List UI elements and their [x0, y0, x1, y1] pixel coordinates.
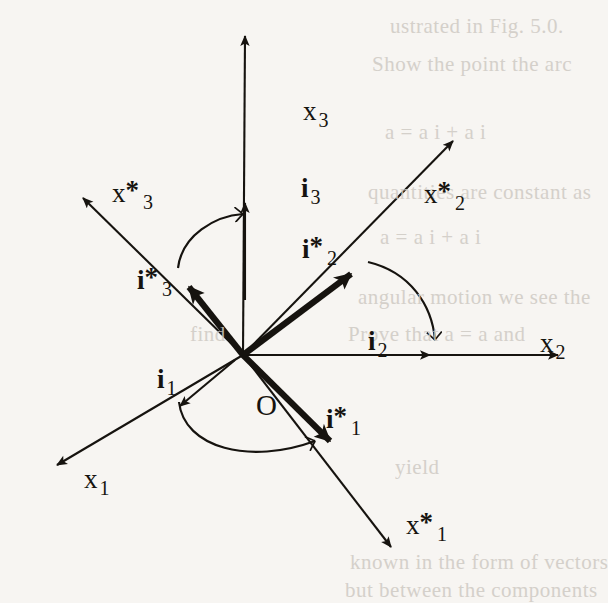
label-i-star2: i*2 — [302, 236, 333, 263]
label-base: x — [84, 464, 98, 494]
label-x3: x3 — [303, 98, 327, 125]
label-base: x — [303, 96, 317, 126]
unit-vector-i3-star — [189, 287, 243, 355]
label-x-star1: x*1 — [406, 512, 443, 539]
label-i1: i1 — [157, 366, 175, 393]
label-base: x — [540, 328, 554, 358]
label-subscript: 2 — [327, 247, 337, 269]
label-subscript: 2 — [455, 192, 465, 214]
unit-vector-i2-star — [243, 274, 351, 355]
label-i-star3: i*3 — [137, 267, 168, 294]
label-asterisk: * — [334, 401, 348, 431]
unit-vector-i1 — [180, 360, 235, 406]
label-asterisk: * — [420, 507, 434, 537]
label-x1: x1 — [84, 466, 108, 493]
label-subscript: 2 — [556, 341, 566, 363]
label-base: x — [112, 178, 126, 208]
label-base: i — [301, 173, 309, 203]
label-subscript: 3 — [143, 191, 153, 213]
label-subscript: 1 — [351, 417, 361, 439]
origin-label-text: O — [256, 389, 277, 421]
label-subscript: 1 — [100, 477, 110, 499]
label-i-star1: i*1 — [326, 406, 357, 433]
label-i3: i3 — [301, 175, 319, 202]
axis-line-x2-star — [243, 141, 453, 355]
label-subscript: 1 — [437, 523, 447, 545]
label-base: i — [137, 265, 145, 295]
label-base: i — [157, 364, 165, 394]
label-asterisk: * — [145, 262, 159, 292]
label-subscript: 3 — [162, 278, 172, 300]
label-base: x — [424, 179, 438, 209]
label-x-star2: x*2 — [424, 181, 461, 208]
axis-line-x1 — [57, 355, 243, 465]
label-subscript: 2 — [378, 339, 388, 361]
label-base: x — [406, 510, 420, 540]
label-base: i — [326, 404, 334, 434]
origin-label: O — [256, 391, 277, 420]
label-base: i — [368, 326, 376, 356]
label-asterisk: * — [126, 175, 140, 205]
label-x2: x2 — [540, 330, 564, 357]
label-asterisk: * — [310, 231, 324, 261]
axis-line-x3 — [243, 36, 245, 355]
label-subscript: 3 — [311, 186, 321, 208]
label-i2: i2 — [368, 328, 386, 355]
label-subscript: 3 — [319, 109, 329, 131]
angle-arc-i3-star-to-i3 — [178, 214, 243, 268]
label-base: i — [302, 234, 310, 264]
label-asterisk: * — [438, 176, 452, 206]
label-subscript: 1 — [167, 377, 177, 399]
label-x-star3: x*3 — [112, 180, 149, 207]
